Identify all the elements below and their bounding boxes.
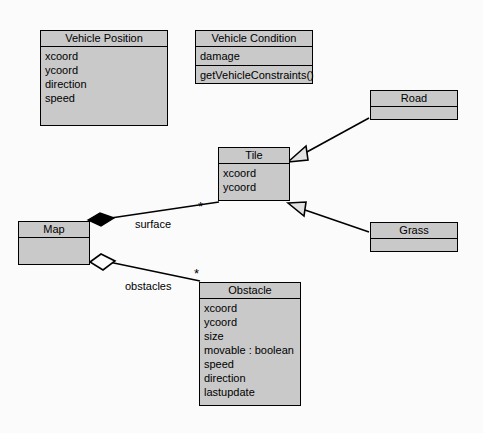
class-box-road[interactable]: Road: [370, 90, 458, 120]
attribute-item: damage: [200, 49, 312, 63]
attribute-item: direction: [204, 371, 300, 385]
attribute-item: lastupdate: [204, 385, 300, 399]
multiplicity-obstacle: *: [194, 270, 199, 278]
class-title-obstacle: Obstacle: [200, 283, 300, 299]
attribute-item: ycoord: [223, 180, 289, 194]
attribute-item: ycoord: [204, 315, 300, 329]
class-title-vehicle-position: Vehicle Position: [41, 31, 167, 47]
attribute-item: size: [204, 329, 300, 343]
attribute-item: direction: [45, 77, 167, 91]
class-box-obstacle[interactable]: Obstacle xcoord ycoord size movable : bo…: [199, 282, 301, 406]
operation-item: getVehicleConstraints(): [200, 68, 312, 82]
class-box-grass[interactable]: Grass: [370, 222, 458, 252]
attribute-item: speed: [204, 357, 300, 371]
class-title-map: Map: [19, 222, 89, 238]
class-attributes-grass: [371, 239, 457, 243]
generalization-road-to-tile: [288, 118, 369, 162]
class-title-road: Road: [371, 91, 457, 107]
attribute-item: ycoord: [45, 63, 167, 77]
class-attributes-vehicle-position: xcoord ycoord direction speed: [41, 47, 167, 107]
class-title-grass: Grass: [371, 223, 457, 239]
class-title-vehicle-condition: Vehicle Condition: [196, 31, 312, 47]
class-operations-vehicle-condition: getVehicleConstraints(): [196, 66, 312, 84]
attribute-item: speed: [45, 91, 167, 105]
class-title-tile: Tile: [219, 148, 289, 164]
class-attributes-tile: xcoord ycoord: [219, 164, 289, 196]
class-attributes-vehicle-condition: damage: [196, 47, 312, 66]
class-attributes-map: [19, 238, 89, 242]
class-box-map[interactable]: Map: [18, 221, 90, 265]
multiplicity-tile: *: [198, 203, 203, 211]
attribute-item: xcoord: [45, 49, 167, 63]
aggregation-map-to-obstacle: [90, 254, 200, 281]
class-box-tile[interactable]: Tile xcoord ycoord: [218, 147, 290, 201]
generalization-grass-to-tile: [288, 202, 369, 232]
class-box-vehicle-condition[interactable]: Vehicle Condition damage getVehicleConst…: [195, 30, 313, 84]
association-label-obstacles: obstacles: [125, 280, 171, 292]
attribute-item: movable : boolean: [204, 343, 300, 357]
class-attributes-obstacle: xcoord ycoord size movable : boolean spe…: [200, 299, 300, 401]
association-label-surface: surface: [135, 218, 171, 230]
attribute-item: xcoord: [223, 166, 289, 180]
uml-diagram-canvas: Vehicle Position xcoord ycoord direction…: [0, 0, 483, 433]
attribute-item: xcoord: [204, 301, 300, 315]
class-box-vehicle-position[interactable]: Vehicle Position xcoord ycoord direction…: [40, 30, 168, 126]
class-attributes-road: [371, 107, 457, 111]
